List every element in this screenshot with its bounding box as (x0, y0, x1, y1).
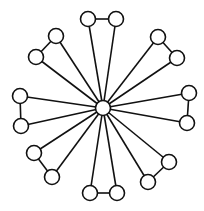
node-left-b (14, 119, 29, 134)
node-lower-right-b (141, 175, 156, 190)
node-right-b (180, 116, 195, 131)
node-upper-left-b (29, 50, 44, 65)
edge-hub-lower-left-b (52, 108, 103, 177)
node-upper-right-a (151, 30, 166, 45)
edge-hub-upper-left-a (56, 36, 103, 108)
node-upper-right-b (170, 51, 185, 66)
node-bottom-b (110, 186, 125, 201)
node-top-b (109, 12, 124, 27)
node-top-a (81, 12, 96, 27)
nodes-layer (13, 12, 197, 201)
edge-hub-bottom-a (90, 108, 103, 193)
node-lower-left-a (27, 146, 42, 161)
node-lower-right-a (162, 155, 177, 170)
node-bottom-a (83, 186, 98, 201)
node-upper-left-a (49, 29, 64, 44)
friendship-graph-diagram (0, 0, 204, 211)
node-right-a (182, 86, 197, 101)
edge-hub-right-b (103, 108, 187, 123)
edge-hub-upper-right-b (103, 58, 177, 108)
node-lower-left-b (45, 170, 60, 185)
node-left-a (13, 89, 28, 104)
edge-hub-top-a (88, 19, 103, 108)
hub-node (96, 101, 111, 116)
edge-hub-right-a (103, 93, 189, 108)
edge-hub-lower-left-a (34, 108, 103, 153)
edge-hub-lower-right-a (103, 108, 169, 162)
